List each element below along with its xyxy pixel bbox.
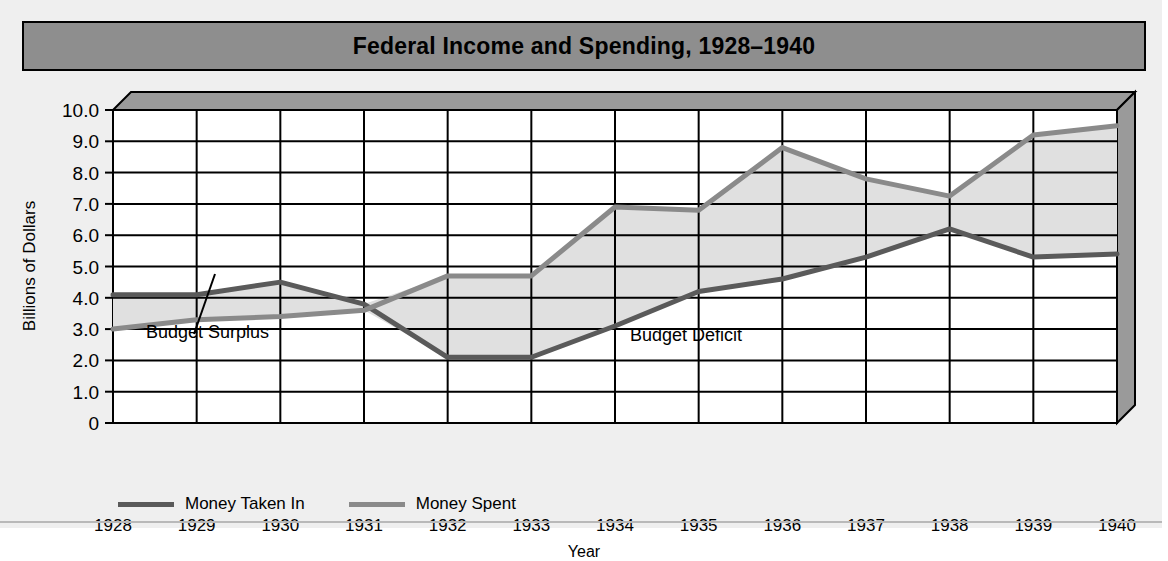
- x-axis-tick-label: 1937: [831, 516, 901, 536]
- legend-line-swatch: [118, 502, 174, 507]
- y-axis-tick-label: 10.0: [62, 100, 99, 121]
- y-axis-tick-label: 0: [88, 413, 99, 434]
- legend-label: Money Taken In: [185, 494, 305, 514]
- y-axis-tick-label: 7.0: [73, 194, 99, 215]
- y-axis-tick-label: 8.0: [73, 163, 99, 184]
- legend-label: Money Spent: [416, 494, 516, 514]
- chart-plot-area: 10.09.08.07.06.05.04.03.02.01.00 Billion…: [0, 78, 1168, 450]
- x-axis-tick-label: 1940: [1082, 516, 1152, 536]
- x-axis-tick-label: 1939: [998, 516, 1068, 536]
- x-axis-tick-label: 1936: [747, 516, 817, 536]
- right-margin: [1162, 0, 1168, 528]
- x-axis-title: Year: [554, 543, 614, 561]
- x-axis-tick-label: 1938: [915, 516, 985, 536]
- x-axis-tick-label: 1933: [496, 516, 566, 536]
- legend-line-swatch: [349, 502, 405, 507]
- x-axis-tick-label: 1929: [162, 516, 232, 536]
- bottom-divider: [0, 521, 1168, 523]
- y-axis-tick-label: 1.0: [73, 382, 99, 403]
- x-axis-tick-label: 1934: [580, 516, 650, 536]
- line-chart-svg: 10.09.08.07.06.05.04.03.02.01.00: [0, 78, 1168, 450]
- x-axis-tick-label: 1932: [413, 516, 483, 536]
- x-axis-tick-label: 1928: [78, 516, 148, 536]
- page-title: Federal Income and Spending, 1928–1940: [353, 33, 816, 60]
- x-axis-tick-label: 1935: [664, 516, 734, 536]
- y-axis-tick-label: 5.0: [73, 257, 99, 278]
- y-axis-tick-label: 9.0: [73, 131, 99, 152]
- y-axis-title: Billions of Dollars: [20, 166, 40, 366]
- y-axis-tick-label: 3.0: [73, 319, 99, 340]
- chart-legend: Money Taken InMoney Spent: [118, 494, 516, 514]
- plot-top-bevel: [113, 92, 1135, 110]
- annotation-budget-surplus: Budget Surplus: [146, 322, 269, 343]
- annotation-budget-deficit: Budget Deficit: [630, 325, 742, 346]
- y-axis-tick-label: 4.0: [73, 288, 99, 309]
- x-axis-tick-label: 1930: [245, 516, 315, 536]
- y-axis-tick-label: 2.0: [73, 350, 99, 371]
- legend-item: Money Taken In: [118, 494, 305, 514]
- plot-right-bevel: [1117, 92, 1135, 423]
- legend-item: Money Spent: [349, 494, 516, 514]
- y-axis-tick-label: 6.0: [73, 225, 99, 246]
- chart-title-band: Federal Income and Spending, 1928–1940: [22, 21, 1146, 71]
- x-axis-tick-label: 1931: [329, 516, 399, 536]
